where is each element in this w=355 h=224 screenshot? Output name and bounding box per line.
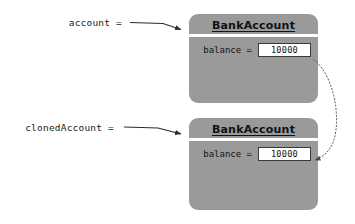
object-body-cloned-account: balance = 10000 [189,138,318,161]
object-header-account: BankAccount [189,14,318,34]
object-header-cloned-account: BankAccount [189,118,318,138]
object-box-account: BankAccount balance = 10000 [189,14,318,103]
cloned-account-reference-arrow [124,127,181,134]
reference-label-cloned-account: clonedAccount = [0,122,114,133]
object-class-name-account: BankAccount [212,19,295,32]
field-row-balance-cloned-account: balance = 10000 [189,147,318,161]
object-body-account: balance = 10000 [189,34,318,57]
diagram-canvas: account = clonedAccount = BankAccount ba… [0,0,355,224]
field-value-balance-cloned-account: 10000 [271,149,298,159]
reference-label-account: account = [0,17,122,28]
field-value-box-balance-account: 10000 [258,43,311,57]
field-value-balance-account: 10000 [271,45,298,55]
field-row-balance-account: balance = 10000 [189,43,318,57]
account-reference-arrow [130,23,181,30]
field-label-balance-account: balance = [203,45,252,55]
object-class-name-cloned-account: BankAccount [212,123,295,136]
object-box-cloned-account: BankAccount balance = 10000 [189,118,318,210]
field-label-balance-cloned-account: balance = [203,149,252,159]
field-value-box-balance-cloned-account: 10000 [258,147,311,161]
